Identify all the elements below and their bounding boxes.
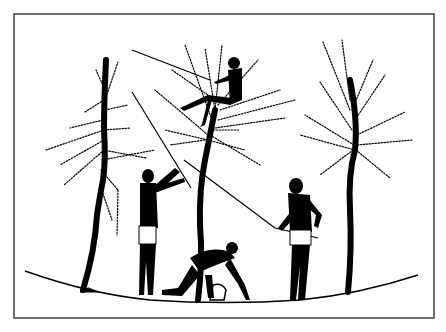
olive-harvest-illustration bbox=[0, 0, 446, 332]
frame bbox=[14, 14, 434, 318]
right-tree bbox=[300, 40, 412, 292]
figure-crouching bbox=[162, 242, 250, 300]
left-tree bbox=[46, 60, 155, 292]
figure-left-standing bbox=[139, 168, 185, 295]
figure-right-standing bbox=[278, 178, 322, 300]
